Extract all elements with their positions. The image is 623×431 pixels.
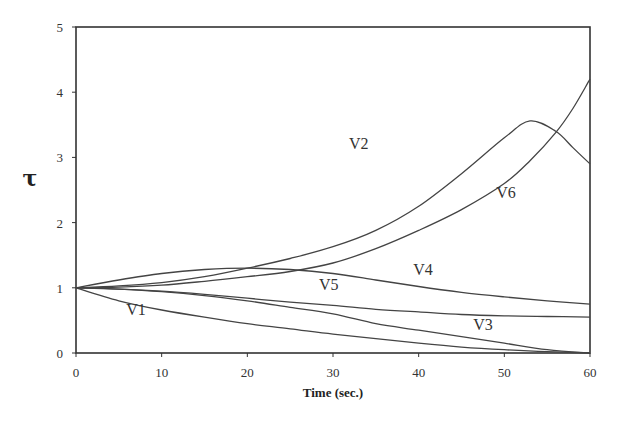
series-label-v1: V1 <box>126 301 146 318</box>
x-tick-label: 20 <box>241 365 254 380</box>
series-label-v3: V3 <box>473 316 493 333</box>
x-tick-label: 0 <box>73 365 80 380</box>
series-label-v6: V6 <box>496 184 516 201</box>
x-tick-label: 40 <box>412 365 425 380</box>
x-tick-label: 10 <box>155 365 168 380</box>
y-axis-ticks: 012345 <box>57 20 77 361</box>
y-tick-label: 1 <box>57 281 64 296</box>
y-tick-label: 3 <box>57 150 64 165</box>
y-tick-label: 0 <box>57 346 64 361</box>
series-curves <box>76 79 590 353</box>
y-tick-label: 4 <box>57 85 64 100</box>
x-axis-ticks: 0102030405060 <box>73 353 597 380</box>
series-labels: V1V2V3V4V5V6 <box>126 135 516 333</box>
y-axis-title: τ <box>23 165 38 191</box>
x-tick-label: 60 <box>584 365 597 380</box>
series-label-v2: V2 <box>349 135 369 152</box>
y-tick-label: 2 <box>57 216 64 231</box>
x-axis-title: Time (sec.) <box>303 385 363 400</box>
series-label-v4: V4 <box>413 261 433 278</box>
x-tick-label: 50 <box>498 365 511 380</box>
x-tick-label: 30 <box>327 365 340 380</box>
series-label-v5: V5 <box>319 276 339 293</box>
y-tick-label: 5 <box>57 20 64 35</box>
line-chart: 0102030405060 012345 V1V2V3V4V5V6 Time (… <box>0 0 623 431</box>
